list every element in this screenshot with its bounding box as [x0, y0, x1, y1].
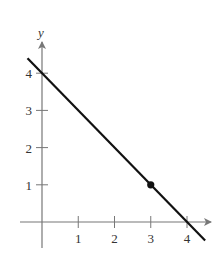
line-series — [28, 58, 206, 240]
data-point — [147, 181, 154, 188]
data-series — [28, 58, 206, 240]
y-axis-label: y — [36, 25, 44, 40]
x-tick-label: 3 — [148, 231, 155, 246]
data-points — [147, 181, 154, 188]
y-tick-label: 3 — [26, 103, 33, 118]
x-tick-label: 4 — [184, 231, 191, 246]
x-tick-label: 2 — [111, 231, 118, 246]
y-tick-label: 4 — [26, 66, 33, 81]
y-tick-label: 2 — [26, 141, 33, 156]
x-tick-label: 1 — [75, 231, 82, 246]
y-tick-label: 1 — [26, 178, 33, 193]
chart: 12341234 y — [0, 0, 213, 256]
ticks: 12341234 — [26, 66, 191, 246]
